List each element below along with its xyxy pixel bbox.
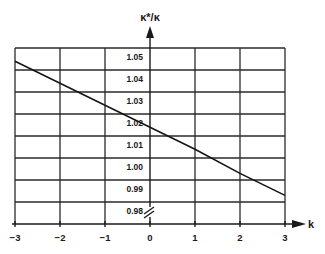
x-tick-label: 1 [192, 232, 198, 243]
x-tick-label: 3 [282, 232, 287, 243]
y-tick-label: 0.98 [126, 206, 143, 216]
y-tick-label: 1.01 [126, 140, 143, 150]
y-axis-label: κ*/κ [140, 11, 160, 23]
x-tick-label: 2 [237, 232, 242, 243]
y-tick-label: 1.03 [126, 96, 143, 106]
x-axis-label: k [308, 218, 315, 230]
x-tick-label: −3 [10, 232, 21, 243]
x-tick-label: 0 [147, 232, 152, 243]
axes [12, 26, 306, 228]
x-tick-label: −2 [55, 232, 66, 243]
axis-break-icon [144, 207, 155, 218]
chart: 1.051.041.031.021.011.000.990.98 −3−2−10… [0, 0, 325, 254]
y-axis-arrow-icon [146, 26, 154, 38]
y-tick-label: 1.04 [126, 74, 143, 84]
x-tick-label: −1 [100, 232, 112, 243]
y-tick-label: 0.99 [126, 184, 143, 194]
y-tick-label: 1.05 [126, 52, 143, 62]
y-tick-label: 1.00 [126, 162, 143, 172]
x-axis-arrow-icon [292, 220, 306, 228]
y-tick-labels: 1.051.041.031.021.011.000.990.98 [126, 52, 143, 216]
